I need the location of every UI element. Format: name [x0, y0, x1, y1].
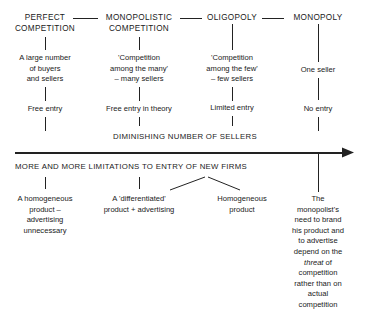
vline-monopolistic-4	[139, 177, 140, 189]
emphasis-threat: threat	[304, 258, 323, 267]
product-line: rather than on	[273, 279, 363, 290]
product-line: A homogeneous	[0, 194, 90, 205]
product-line: his product and	[273, 226, 363, 237]
product-line: depend on the	[273, 247, 363, 258]
product-line: competition	[273, 300, 363, 311]
product-line: product + advertising	[84, 205, 194, 216]
product-line: product –	[0, 205, 90, 216]
product-line: competition	[273, 268, 363, 279]
product-perfect: A homogeneous product – advertising unne…	[0, 194, 90, 236]
product-line-emphasis: threat of	[273, 258, 363, 269]
product-monopolistic: A 'differentiated' product + advertising	[84, 194, 194, 215]
product-line: actual	[273, 289, 363, 300]
axis-label-entry-limitations: MORE AND MORE LIMITATIONS TO ENTRY OF NE…	[15, 162, 265, 173]
product-line: A 'differentiated'	[84, 194, 194, 205]
vline-perfect-4	[45, 177, 46, 189]
product-line: The	[273, 194, 363, 205]
product-line: advertising	[0, 215, 90, 226]
product-monopoly: The monopolist's need to brand his produ…	[273, 194, 363, 311]
product-line-of: of	[323, 258, 331, 267]
product-line: unnecessary	[0, 226, 90, 237]
product-line: to advertise	[273, 236, 363, 247]
product-line: need to brand	[273, 215, 363, 226]
product-line: monopolist's	[273, 205, 363, 216]
vline-monopoly-4	[318, 152, 319, 192]
